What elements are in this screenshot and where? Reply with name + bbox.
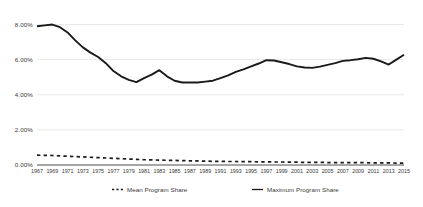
- legend-label-mean: Mean Program Share: [127, 186, 187, 193]
- x-tick-label: 2015: [394, 168, 414, 174]
- y-tick-label: 2.00%: [0, 126, 33, 133]
- series-line-1: [37, 25, 404, 83]
- legend-dashed-line-icon: [112, 187, 123, 192]
- legend-item-maximum-program-share[interactable]: Maximum Program Share: [252, 186, 339, 193]
- y-tick-label: 8.00%: [0, 21, 33, 28]
- legend-label-max: Maximum Program Share: [267, 186, 339, 193]
- chart-legend: Mean Program Share Maximum Program Share: [0, 186, 423, 202]
- legend-solid-line-icon: [252, 187, 263, 192]
- gridlines: [37, 25, 404, 165]
- y-tick-label: 0.00%: [0, 161, 33, 168]
- legend-item-mean-program-share[interactable]: Mean Program Share: [112, 186, 187, 193]
- y-tick-label: 4.00%: [0, 91, 33, 98]
- y-tick-label: 6.00%: [0, 56, 33, 63]
- series-line-2: [37, 155, 404, 163]
- chart-plot-area: [0, 0, 423, 207]
- chart-container: 0.00%2.00%4.00%6.00%8.00% 19671969197119…: [0, 0, 423, 207]
- series-lines: [37, 25, 404, 164]
